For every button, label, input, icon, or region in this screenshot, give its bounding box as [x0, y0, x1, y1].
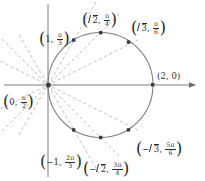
- fraction-3pi-4: 3π4: [112, 162, 122, 176]
- label-point-1-pi-3: (1, π3): [39, 32, 70, 46]
- x-axis-arrowhead: [189, 82, 196, 88]
- paren-open: (: [83, 159, 89, 178]
- paren-close: ): [176, 139, 182, 158]
- paren-open: (: [39, 29, 45, 48]
- radical-sign-icon: 2: [97, 164, 107, 174]
- radial-dashed-rays: [0, 0, 140, 175]
- paren-close: ): [123, 159, 129, 178]
- ray-pi-4: [2, 12, 121, 131]
- label-point-2-0: (2, 0): [157, 72, 180, 81]
- point-negsqrt3-5pi6: [127, 128, 130, 131]
- fraction-pi-6: π6: [153, 21, 159, 35]
- paren-close: ): [64, 29, 70, 48]
- point-negsqrt2-3pi4: [99, 136, 102, 139]
- label-point-sqrt3-pi-6: (3, π6): [131, 21, 166, 35]
- label-point-sqrt2-pi-4: (2, π4): [82, 13, 117, 27]
- paren-close: ): [28, 92, 34, 111]
- label-r-value: 0: [9, 97, 15, 107]
- fraction-5pi-6: 5π6: [165, 142, 175, 156]
- radical-sign-icon: 2: [88, 15, 98, 25]
- paren-open: (: [40, 152, 46, 171]
- fraction-pi-3: π3: [57, 32, 63, 46]
- paren-close: ): [76, 152, 82, 171]
- point-1-pi3: [72, 38, 75, 41]
- label-r-value: −1: [46, 157, 59, 167]
- point-0-pi2: [46, 83, 50, 87]
- label-point-negsqrt3-5pi-6: (−3, 5π6): [136, 142, 182, 156]
- paren-close: ): [160, 18, 166, 37]
- fraction-pi-4: π4: [104, 13, 110, 27]
- label-r-value: 1: [45, 34, 51, 44]
- label-point-negsqrt2-3pi-4: (−2, 3π4): [83, 162, 129, 176]
- radical-sign-icon: 3: [150, 144, 160, 154]
- fraction-pi-2: π2: [21, 95, 27, 109]
- point-sqrt2-pi4: [99, 31, 102, 34]
- paren-open: (: [136, 139, 142, 158]
- ray-5pi-6: [0, 56, 140, 131]
- label-pole-0-pi-2: (0, π2): [3, 95, 34, 109]
- radical-sign-icon: 3: [137, 23, 147, 33]
- paren-close: ): [111, 10, 117, 29]
- point-sqrt3-pi6: [127, 40, 130, 43]
- point-neg1-2pi3: [72, 128, 75, 131]
- fraction-2pi-3: 2π3: [65, 155, 75, 169]
- polar-circle-figure: (1, π3) (2, π4) (3, π6) (2, 0) (0, π2) (…: [0, 0, 205, 181]
- label-point-neg1-2pi-3: (−1, 2π3): [40, 155, 82, 169]
- point-2-0: [151, 83, 154, 86]
- paren-open: (: [3, 92, 9, 111]
